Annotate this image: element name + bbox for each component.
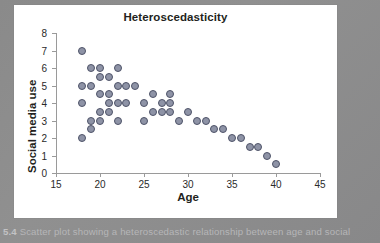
y-tick-label: 2 bbox=[41, 133, 47, 144]
chart-title: Heteroscedasticity bbox=[14, 11, 337, 23]
scatter-point bbox=[114, 117, 122, 125]
scatter-point bbox=[149, 108, 157, 116]
scatter-point bbox=[87, 125, 95, 133]
x-tick bbox=[232, 173, 233, 177]
y-tick: 5 bbox=[52, 86, 56, 87]
scatter-point bbox=[158, 99, 166, 107]
y-tick: 7 bbox=[52, 51, 56, 52]
scatter-point bbox=[114, 82, 122, 90]
figure-caption-text: Scatter plot showing a heteroscedastic r… bbox=[20, 226, 351, 237]
scatter-point bbox=[87, 64, 95, 72]
y-tick: 1 bbox=[52, 156, 56, 157]
x-tick bbox=[276, 173, 277, 177]
scatter-point bbox=[158, 108, 166, 116]
scatter-point bbox=[96, 64, 104, 72]
scatter-point bbox=[105, 90, 113, 98]
y-tick: 8 bbox=[52, 33, 56, 34]
scatter-point bbox=[122, 82, 130, 90]
y-tick-label: 1 bbox=[41, 150, 47, 161]
scatter-point bbox=[263, 152, 271, 160]
scatter-point bbox=[114, 99, 122, 107]
scatter-point bbox=[96, 73, 104, 81]
scatter-point bbox=[272, 160, 280, 168]
scatter-point bbox=[166, 99, 174, 107]
scatter-point bbox=[78, 47, 86, 55]
scatter-point bbox=[166, 90, 174, 98]
x-tick bbox=[56, 173, 57, 177]
chart-card: Heteroscedasticity Social media use Age … bbox=[14, 5, 337, 218]
scatter-point bbox=[246, 143, 254, 151]
x-tick bbox=[144, 173, 145, 177]
scatter-point bbox=[87, 117, 95, 125]
scatter-point bbox=[193, 117, 201, 125]
scatter-point bbox=[149, 90, 157, 98]
y-tick-label: 0 bbox=[41, 168, 47, 179]
scatter-point bbox=[87, 82, 95, 90]
scatter-point bbox=[237, 134, 245, 142]
x-tick-label: 40 bbox=[270, 179, 281, 190]
y-tick-label: 8 bbox=[41, 28, 47, 39]
x-tick-label: 45 bbox=[314, 179, 325, 190]
scatter-point bbox=[219, 125, 227, 133]
scatter-point bbox=[105, 73, 113, 81]
scatter-point bbox=[228, 134, 236, 142]
x-tick bbox=[100, 173, 101, 177]
y-tick-label: 7 bbox=[41, 45, 47, 56]
y-tick-label: 5 bbox=[41, 80, 47, 91]
scatter-point bbox=[78, 99, 86, 107]
scatter-point bbox=[184, 108, 192, 116]
x-tick bbox=[188, 173, 189, 177]
x-tick-label: 25 bbox=[138, 179, 149, 190]
scatter-point bbox=[105, 108, 113, 116]
scatter-point bbox=[175, 117, 183, 125]
y-tick: 2 bbox=[52, 138, 56, 139]
y-tick-label: 4 bbox=[41, 98, 47, 109]
scatter-point bbox=[166, 108, 174, 116]
scatter-point bbox=[140, 99, 148, 107]
figure-caption: 5.4 Scatter plot showing a heteroscedast… bbox=[3, 226, 380, 237]
x-tick-label: 20 bbox=[94, 179, 105, 190]
y-tick-label: 6 bbox=[41, 63, 47, 74]
scatter-point bbox=[122, 99, 130, 107]
y-tick-label: 3 bbox=[41, 115, 47, 126]
scatter-point bbox=[210, 125, 218, 133]
x-tick-label: 35 bbox=[226, 179, 237, 190]
scatter-point bbox=[131, 82, 139, 90]
y-axis-title: Social media use bbox=[26, 33, 38, 173]
scatter-point bbox=[78, 134, 86, 142]
scatter-point bbox=[140, 117, 148, 125]
scatter-point bbox=[254, 143, 262, 151]
scatter-point bbox=[78, 82, 86, 90]
scatter-point bbox=[96, 108, 104, 116]
scatter-point bbox=[202, 117, 210, 125]
x-tick bbox=[320, 173, 321, 177]
scatter-point bbox=[96, 90, 104, 98]
plot-area: 012345678 15202530354045 bbox=[56, 33, 320, 173]
page-background: Heteroscedasticity Social media use Age … bbox=[0, 0, 380, 243]
scatter-point bbox=[105, 99, 113, 107]
x-tick-label: 30 bbox=[182, 179, 193, 190]
figure-number: 5.4 bbox=[3, 226, 17, 237]
scatter-point bbox=[114, 64, 122, 72]
scatter-point bbox=[96, 117, 104, 125]
y-tick: 6 bbox=[52, 68, 56, 69]
y-tick: 3 bbox=[52, 121, 56, 122]
y-tick: 4 bbox=[52, 103, 56, 104]
y-axis-line bbox=[56, 33, 57, 174]
x-axis-title: Age bbox=[56, 191, 320, 203]
x-tick-label: 15 bbox=[50, 179, 61, 190]
